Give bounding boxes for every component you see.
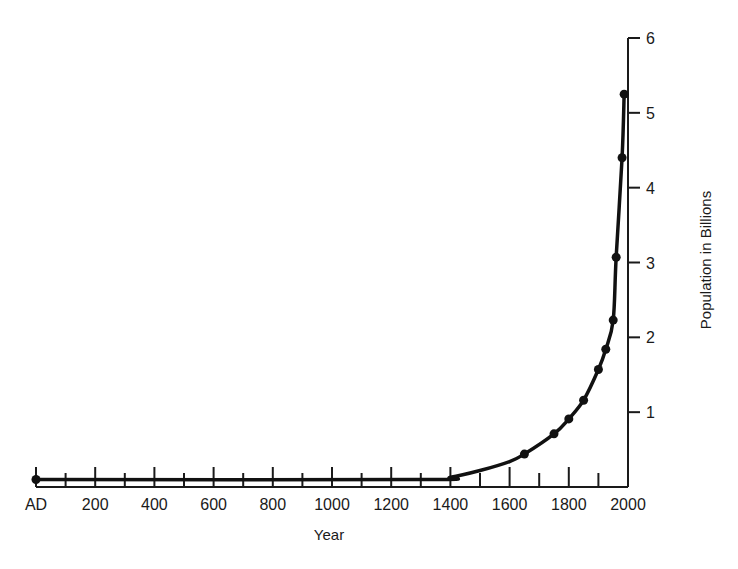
y-axis: 123456 Population in Billions	[628, 30, 714, 487]
x-tick-label: 2000	[610, 496, 646, 513]
y-tick-label: 3	[646, 255, 655, 272]
data-point-marker	[618, 153, 627, 162]
y-tick-label: 5	[646, 105, 655, 122]
x-tick-label: 200	[82, 496, 109, 513]
y-axis-tick-labels: 123456	[646, 30, 655, 421]
data-point-marker	[609, 316, 618, 325]
y-axis-title: Population in Billions	[697, 191, 714, 329]
data-point-marker	[594, 365, 603, 374]
x-axis-tick-labels: AD200400600800100012001400160018002000	[25, 496, 646, 513]
x-tick-label: 1600	[492, 496, 528, 513]
y-tick-label: 2	[646, 329, 655, 346]
x-tick-label: AD	[25, 496, 47, 513]
y-tick-label: 1	[646, 404, 655, 421]
population-curve	[36, 94, 624, 480]
data-point-marker	[564, 414, 573, 423]
data-point-marker	[520, 450, 529, 459]
data-point-marker	[612, 253, 621, 262]
data-point-marker	[32, 475, 41, 484]
x-tick-label: 400	[141, 496, 168, 513]
data-point-marker	[550, 429, 559, 438]
y-axis-ticks	[628, 38, 640, 412]
population-chart: AD200400600800100012001400160018002000 Y…	[0, 0, 738, 569]
plot-area	[32, 90, 629, 484]
x-tick-label: 1000	[314, 496, 350, 513]
x-axis-title: Year	[314, 526, 344, 543]
x-axis-ticks	[36, 467, 598, 487]
x-tick-label: 800	[259, 496, 286, 513]
x-tick-label: 600	[200, 496, 227, 513]
data-point-marker	[620, 90, 629, 99]
data-point-marker	[579, 396, 588, 405]
x-tick-label: 1800	[551, 496, 587, 513]
x-tick-label: 1200	[373, 496, 409, 513]
data-points	[32, 90, 629, 484]
data-point-marker	[601, 345, 610, 354]
x-tick-label: 1400	[433, 496, 469, 513]
y-tick-label: 6	[646, 30, 655, 47]
y-tick-label: 4	[646, 180, 655, 197]
